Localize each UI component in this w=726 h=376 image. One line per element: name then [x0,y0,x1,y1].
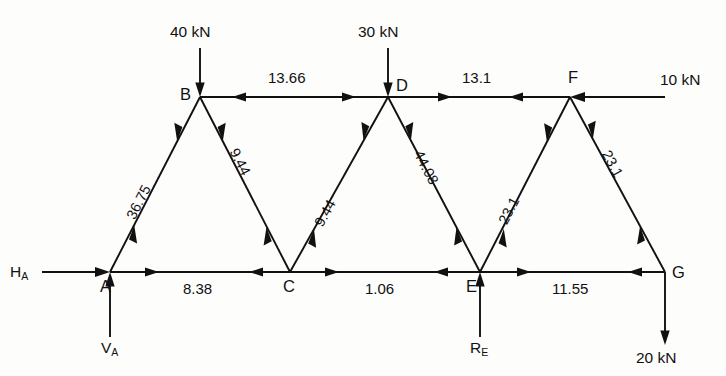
node-label-G: G [672,264,685,281]
member-DF [388,93,570,102]
reaction-label-HA: HA [10,264,28,280]
arrowhead-AC-left [145,268,159,277]
arrowhead-CE-left [325,268,339,277]
node-label-B: B [180,86,191,103]
member-AC [110,268,290,277]
node-label-A: A [100,278,111,295]
arrowhead-EG-left [517,268,531,277]
arrowhead-EG-right [628,268,642,277]
arrowhead-load-D [383,83,392,98]
load-label-B: 40 kN [170,24,211,40]
reaction-label-VA-sub: A [111,346,118,358]
member-DE [388,97,480,272]
arrowhead-BD-left [232,93,246,102]
arrowhead-AC-right [249,268,263,277]
reaction-arrow-HA [42,267,110,277]
arrowhead-CE-right [434,268,448,277]
member-CE [290,268,480,277]
arrowhead-DF-left [438,93,452,102]
node-label-C: C [283,278,295,295]
reaction-label-RE-text: R [470,339,481,356]
member-EG [480,268,665,277]
arrowhead-load-B [195,83,204,98]
reaction-label-HA-text: H [10,263,21,280]
member-force-EG: 11.55 [552,281,588,296]
arrowhead-BD-right [342,93,356,102]
load-arrow-B [195,48,204,97]
member-AB [110,97,200,272]
reaction-label-VA-text: V [101,339,111,356]
member-EF [480,97,570,272]
reaction-label-RE-sub: E [481,346,488,358]
node-label-D: D [396,77,408,94]
load-arrow-D [383,48,392,97]
truss-diagram-canvas: B D F A C E G 13.66 13.1 8.38 1.06 11.55… [0,0,726,376]
arrowhead-load-G [660,331,669,346]
reaction-label-HA-sub: A [21,270,28,282]
reaction-label-VA: VA [101,340,118,356]
reaction-label-RE: RE [470,340,488,356]
member-force-DF: 13.1 [462,70,491,85]
load-label-D: 30 kN [358,24,399,40]
member-FG [570,97,665,272]
load-arrow-F [570,92,665,102]
node-label-F: F [568,69,578,86]
node-label-E: E [466,278,477,295]
arrowhead-DF-right [509,93,523,102]
member-CD [290,97,388,272]
member-force-AC: 8.38 [183,281,212,296]
arrowhead-reaction-HA [95,267,110,277]
member-force-BD: 13.66 [268,70,306,85]
truss-svg [0,0,726,376]
member-BC [200,97,290,272]
member-BD [200,93,388,102]
member-force-CE: 1.06 [365,281,394,296]
load-label-G: 20 kN [636,350,677,366]
load-label-F: 10 kN [660,72,701,88]
load-arrow-G [660,272,669,345]
